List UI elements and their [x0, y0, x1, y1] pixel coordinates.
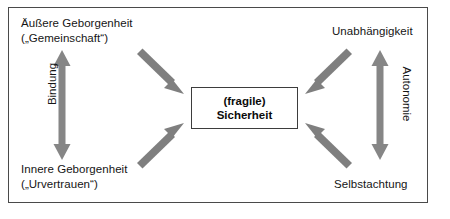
axis-label-autonomie: Autonomie	[401, 61, 413, 127]
axis-label-bindung: Bindung	[46, 54, 58, 114]
center-box-line2: Sicherheit	[217, 108, 273, 122]
center-box-line1: (fragile)	[223, 94, 265, 108]
label-aussere-geborgenheit-line1: Äußere Geborgenheit	[21, 17, 133, 29]
label-aussere-geborgenheit: Äußere Geborgenheit(„Gemeinschaft“)	[21, 16, 133, 45]
label-aussere-geborgenheit-line2: („Gemeinschaft“)	[21, 32, 108, 44]
diagram-root: Äußere Geborgenheit(„Gemeinschaft“) Inne…	[0, 0, 450, 219]
center-box-sicherheit: (fragile) Sicherheit	[191, 87, 298, 129]
label-selbstachtung: Selbstachtung	[334, 177, 408, 192]
label-innere-geborgenheit: Innere Geborgenheit(„Urvertrauen“)	[21, 162, 127, 191]
label-innere-geborgenheit-line1: Innere Geborgenheit	[21, 163, 127, 175]
label-innere-geborgenheit-line2: („Urvertrauen“)	[21, 178, 98, 190]
label-unabhaengigkeit: Unabhängigkeit	[332, 24, 413, 39]
